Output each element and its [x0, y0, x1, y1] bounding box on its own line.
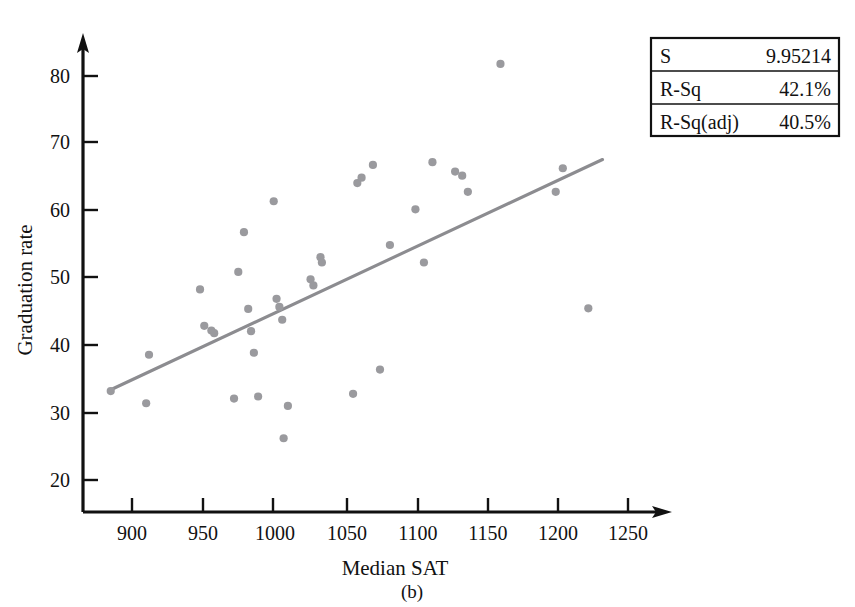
data-point — [278, 316, 286, 324]
x-tick-label: 1050 — [327, 522, 367, 544]
figure-panel: 900 950 1000 1050 1100 1150 1200 1250 20… — [0, 0, 855, 607]
x-tick-label: 1200 — [538, 522, 578, 544]
data-point — [247, 327, 255, 335]
stat-value-s: 9.95214 — [766, 45, 831, 67]
data-point — [142, 399, 150, 407]
data-point — [496, 60, 504, 68]
data-point — [309, 281, 317, 289]
data-point — [270, 197, 278, 205]
y-axis-ticks: 20 30 40 50 60 70 80 — [50, 65, 98, 491]
data-point — [254, 392, 262, 400]
data-point — [200, 322, 208, 330]
data-point — [428, 158, 436, 166]
data-points-layer — [107, 60, 593, 443]
data-point — [196, 285, 204, 293]
data-point — [451, 168, 459, 176]
y-tick-label: 30 — [50, 402, 70, 424]
data-point — [386, 241, 394, 249]
y-tick-label: 80 — [50, 65, 70, 87]
axes-group — [77, 33, 672, 518]
data-point — [280, 434, 288, 442]
data-point — [272, 295, 280, 303]
data-point — [552, 188, 560, 196]
data-point — [411, 205, 419, 213]
stat-value-r-sq-adj: 40.5% — [779, 111, 831, 133]
data-point — [376, 365, 384, 373]
data-point — [420, 258, 428, 266]
data-point — [369, 161, 377, 169]
stat-value-r-sq: 42.1% — [779, 78, 831, 100]
data-point — [284, 402, 292, 410]
regression-line-segment — [111, 159, 603, 389]
data-point — [234, 268, 242, 276]
data-point — [275, 303, 283, 311]
x-tick-label: 1100 — [398, 522, 437, 544]
stat-label-s: S — [660, 45, 671, 67]
regression-line — [111, 159, 603, 389]
y-tick-label: 20 — [50, 469, 70, 491]
figure-caption: (b) — [401, 581, 423, 603]
scatterplot-svg: 900 950 1000 1050 1100 1150 1200 1250 20… — [0, 0, 855, 607]
data-point — [240, 228, 248, 236]
data-point — [230, 394, 238, 402]
x-tick-label: 1150 — [468, 522, 507, 544]
y-tick-label: 40 — [50, 334, 70, 356]
x-tick-label: 1000 — [255, 522, 295, 544]
x-tick-label: 1250 — [608, 522, 648, 544]
stat-label-r-sq: R-Sq — [660, 78, 701, 101]
stat-label-r-sq-adj: R-Sq(adj) — [660, 111, 739, 134]
data-point — [464, 188, 472, 196]
data-point — [349, 390, 357, 398]
y-tick-label: 50 — [50, 266, 70, 288]
y-tick-label: 70 — [50, 131, 70, 153]
y-tick-label: 60 — [50, 199, 70, 221]
x-tick-label: 900 — [117, 522, 147, 544]
data-point — [210, 329, 218, 337]
data-point — [584, 304, 592, 312]
data-point — [357, 174, 365, 182]
data-point — [318, 258, 326, 266]
x-axis-title: Median SAT — [342, 556, 449, 580]
data-point — [559, 164, 567, 172]
statistics-box: S 9.95214 R-Sq 42.1% R-Sq(adj) 40.5% — [651, 38, 839, 136]
x-axis-ticks: 900 950 1000 1050 1100 1150 1200 1250 — [117, 498, 648, 544]
data-point — [250, 349, 258, 357]
data-point — [244, 305, 252, 313]
x-tick-label: 950 — [188, 522, 218, 544]
y-axis-title: Graduation rate — [13, 224, 37, 355]
data-point — [107, 387, 115, 395]
data-point — [145, 351, 153, 359]
data-point — [458, 172, 466, 180]
